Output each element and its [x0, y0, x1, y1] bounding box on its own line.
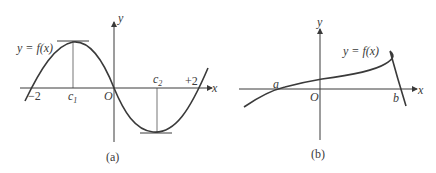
- endpoint-label-a: a: [273, 77, 279, 91]
- origin-label-b: O: [310, 90, 319, 104]
- y-axis-label-a: y: [117, 11, 124, 25]
- root-label-right: +2: [185, 74, 198, 88]
- caption-a: (a): [106, 150, 119, 164]
- x-axis-label-a: x: [211, 81, 218, 95]
- figure-b: y = f(x) y x O a b (b): [239, 15, 424, 161]
- figure-canvas: y = f(x) y x O −2 +2 c1 c2 (a) y = f(x) …: [0, 0, 436, 173]
- root-label-left: −2: [28, 89, 41, 103]
- y-axis-label-b: y: [316, 15, 323, 29]
- caption-b: (b): [311, 147, 325, 161]
- curve-b: [244, 51, 406, 107]
- curve-label-b: y = f(x): [342, 44, 379, 58]
- curve-a: [25, 42, 208, 132]
- origin-label-a: O: [104, 89, 113, 103]
- endpoint-label-b: b: [393, 91, 399, 105]
- x-axis-label-b: x: [417, 83, 424, 97]
- c2-label: c2: [153, 72, 162, 88]
- figure-a: y = f(x) y x O −2 +2 c1 c2 (a): [16, 11, 218, 164]
- curve-label-a: y = f(x): [16, 41, 53, 55]
- c1-label: c1: [68, 89, 77, 105]
